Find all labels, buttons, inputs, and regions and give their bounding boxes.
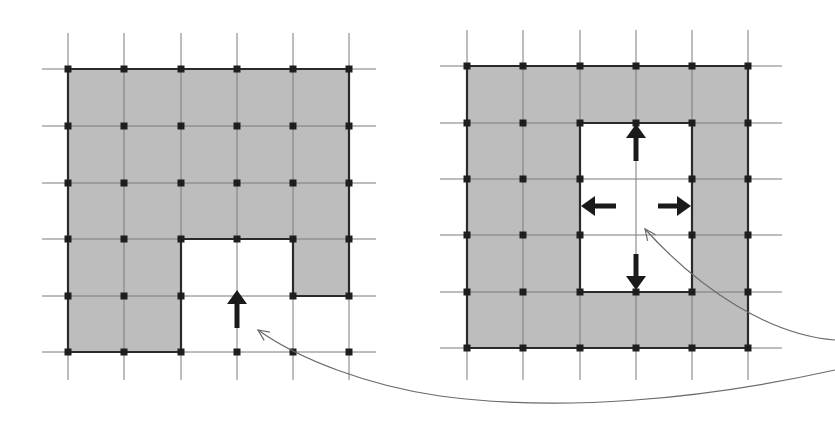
grid-node bbox=[689, 345, 696, 352]
grid-node bbox=[290, 293, 297, 300]
grid-node bbox=[689, 176, 696, 183]
grid-node bbox=[577, 63, 584, 70]
grid-cell bbox=[467, 292, 523, 348]
grid-node bbox=[178, 293, 185, 300]
grid-node bbox=[745, 176, 752, 183]
grid-node bbox=[178, 180, 185, 187]
grid-cell bbox=[580, 66, 636, 123]
grid-cell bbox=[523, 123, 580, 179]
grid-cell bbox=[523, 235, 580, 292]
grid-node bbox=[745, 345, 752, 352]
grid-node bbox=[234, 236, 241, 243]
left-grid-cells bbox=[68, 69, 349, 352]
grid-node bbox=[745, 232, 752, 239]
grid-node bbox=[234, 123, 241, 130]
grid-cell bbox=[636, 292, 692, 348]
grid-cell bbox=[68, 126, 124, 183]
grid-node bbox=[464, 176, 471, 183]
grid-expansion-diagram bbox=[0, 0, 835, 424]
grid-node bbox=[121, 349, 128, 356]
grid-node bbox=[689, 289, 696, 296]
grid-node bbox=[633, 63, 640, 70]
grid-node bbox=[577, 176, 584, 183]
grid-node bbox=[464, 120, 471, 127]
grid-node bbox=[689, 63, 696, 70]
grid-cell bbox=[124, 239, 181, 296]
grid-node bbox=[689, 120, 696, 127]
grid-node bbox=[121, 180, 128, 187]
grid-node bbox=[520, 176, 527, 183]
grid-cell bbox=[124, 126, 181, 183]
grid-cell bbox=[237, 183, 293, 239]
grid-node bbox=[520, 232, 527, 239]
grid-cell bbox=[237, 126, 293, 183]
grid-node bbox=[178, 236, 185, 243]
grid-node bbox=[346, 349, 353, 356]
grid-node bbox=[290, 123, 297, 130]
grid-cell bbox=[237, 69, 293, 126]
grid-cell bbox=[523, 292, 580, 348]
grid-cell bbox=[636, 66, 692, 123]
grid-cell bbox=[68, 183, 124, 239]
grid-cell bbox=[523, 66, 580, 123]
grid-node bbox=[178, 123, 185, 130]
grid-node bbox=[65, 66, 72, 73]
grid-cell bbox=[68, 239, 124, 296]
grid-node bbox=[346, 236, 353, 243]
grid-cell bbox=[181, 126, 237, 183]
grid-node bbox=[346, 293, 353, 300]
grid-cell bbox=[523, 179, 580, 235]
grid-cell bbox=[467, 179, 523, 235]
grid-cell bbox=[124, 69, 181, 126]
grid-node bbox=[65, 123, 72, 130]
grid-node bbox=[346, 66, 353, 73]
grid-node bbox=[464, 232, 471, 239]
grid-node bbox=[178, 349, 185, 356]
grid-node bbox=[121, 236, 128, 243]
grid-cell bbox=[467, 235, 523, 292]
grid-cell bbox=[124, 296, 181, 352]
grid-node bbox=[234, 180, 241, 187]
grid-node bbox=[65, 293, 72, 300]
arrow-head bbox=[227, 290, 247, 304]
grid-cell bbox=[580, 292, 636, 348]
grid-node bbox=[65, 349, 72, 356]
grid-node bbox=[65, 180, 72, 187]
grid-node bbox=[745, 289, 752, 296]
grid-node bbox=[689, 232, 696, 239]
grid-node bbox=[464, 345, 471, 352]
grid-node bbox=[234, 349, 241, 356]
grid-node bbox=[745, 63, 752, 70]
grid-node bbox=[520, 289, 527, 296]
grid-node bbox=[464, 289, 471, 296]
grid-cell bbox=[467, 66, 523, 123]
grid-cell bbox=[467, 123, 523, 179]
grid-cell bbox=[293, 126, 349, 183]
grid-node bbox=[346, 180, 353, 187]
grid-node bbox=[577, 345, 584, 352]
grid-node bbox=[745, 120, 752, 127]
grid-cell bbox=[68, 296, 124, 352]
grid-node bbox=[290, 66, 297, 73]
grid-cell bbox=[692, 179, 748, 235]
grid-node bbox=[520, 63, 527, 70]
grid-node bbox=[121, 123, 128, 130]
grid-node bbox=[577, 232, 584, 239]
grid-cell bbox=[124, 183, 181, 239]
grid-node bbox=[577, 120, 584, 127]
grid-cell bbox=[181, 183, 237, 239]
grid-node bbox=[346, 123, 353, 130]
grid-node bbox=[464, 63, 471, 70]
filled-cells-layer bbox=[68, 66, 748, 352]
grid-node bbox=[290, 180, 297, 187]
grid-node bbox=[178, 66, 185, 73]
grid-node bbox=[520, 345, 527, 352]
grid-node bbox=[121, 66, 128, 73]
diagram-canvas bbox=[0, 0, 835, 424]
grid-node bbox=[577, 289, 584, 296]
grid-node bbox=[65, 236, 72, 243]
grid-node bbox=[633, 345, 640, 352]
grid-cell bbox=[181, 69, 237, 126]
grid-node bbox=[121, 293, 128, 300]
grid-cell bbox=[293, 183, 349, 239]
